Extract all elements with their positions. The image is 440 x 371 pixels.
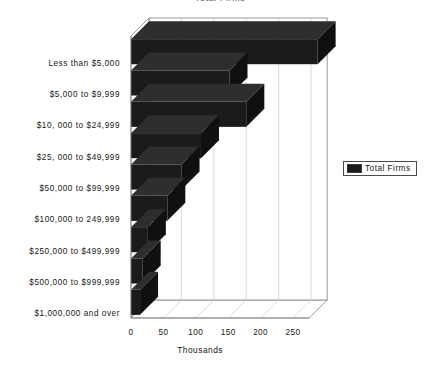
- x-tick-label-5: 250: [286, 328, 301, 337]
- legend-swatch-total-firms: [347, 164, 362, 173]
- chart-legend: Total Firms: [343, 161, 417, 176]
- x-tick-label-0: 0: [129, 328, 134, 337]
- x-tick-label-2: 100: [188, 328, 203, 337]
- x-tick-label-3: 150: [221, 328, 236, 337]
- chart-container: Total Firms Less than $5,000$5,000 to $9…: [0, 0, 440, 371]
- plot-area: [0, 0, 440, 371]
- x-tick-label-1: 50: [158, 328, 168, 337]
- legend-label-total-firms: Total Firms: [365, 164, 411, 173]
- x-tick-label-4: 200: [253, 328, 268, 337]
- x-axis-title: Thousands: [177, 345, 223, 355]
